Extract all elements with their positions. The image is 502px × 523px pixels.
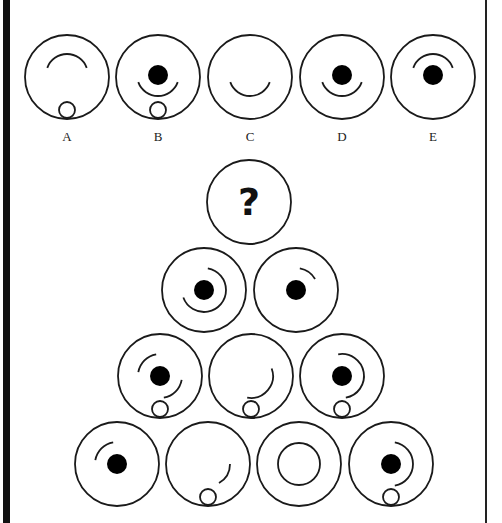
inner-arc <box>300 268 315 279</box>
option-label-e: E <box>429 129 437 145</box>
black-dot <box>381 454 401 474</box>
option-circle <box>25 35 109 119</box>
inner-arc <box>230 82 269 96</box>
black-dot <box>332 65 352 85</box>
inner-ring <box>278 443 320 485</box>
black-dot <box>423 65 443 85</box>
option-label-c: C <box>246 129 255 145</box>
small-circle <box>334 401 350 417</box>
small-circle <box>200 489 216 505</box>
option-label-b: B <box>154 129 163 145</box>
inner-arc <box>47 54 86 68</box>
black-dot <box>286 280 306 300</box>
option-circle <box>208 35 292 119</box>
inner-arc <box>219 464 230 483</box>
small-circle <box>383 489 399 505</box>
small-circle <box>152 401 168 417</box>
black-dot <box>194 280 214 300</box>
small-circle <box>150 102 166 118</box>
option-label-d: D <box>337 129 346 145</box>
inner-arc <box>247 368 273 398</box>
small-circle <box>243 401 259 417</box>
question-mark: ? <box>238 180 260 224</box>
option-label-a: A <box>62 129 71 145</box>
black-dot <box>148 65 168 85</box>
small-circle <box>59 102 75 118</box>
black-dot <box>107 454 127 474</box>
pyramid-circle <box>257 422 341 506</box>
pyramid-circle <box>166 422 250 506</box>
black-dot <box>332 366 352 386</box>
black-dot <box>150 366 170 386</box>
pyramid-circle <box>209 334 293 418</box>
puzzle-canvas <box>0 0 502 523</box>
